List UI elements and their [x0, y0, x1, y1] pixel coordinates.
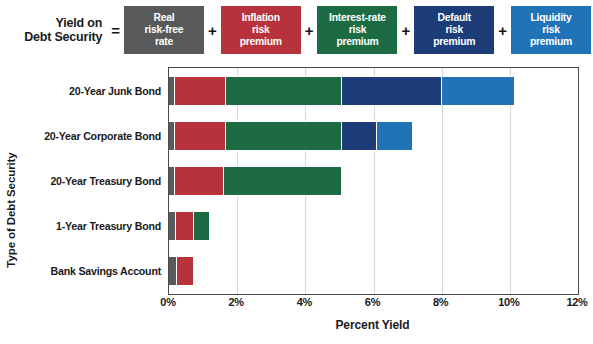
bar-segment[interactable]: [169, 166, 174, 196]
legend-label-line1: Real: [153, 12, 174, 24]
formula-lhs-line1: Yield on: [24, 16, 102, 30]
legend-box-liquidity-risk-premium: Liquidity risk premium: [511, 6, 591, 54]
legend-label-line3: premium: [336, 36, 378, 48]
x-tick-label: 8%: [433, 296, 448, 308]
plus-sign-4: +: [494, 22, 511, 39]
legend-label-line3: rate: [155, 36, 173, 48]
plus-sign-2: +: [301, 22, 318, 39]
bar-segment[interactable]: [176, 211, 193, 241]
x-tick-label: 6%: [365, 296, 380, 308]
bar-row[interactable]: [169, 121, 412, 151]
bar-row[interactable]: [169, 256, 193, 286]
bar-segment[interactable]: [169, 76, 174, 106]
bar-segment[interactable]: [194, 211, 209, 241]
category-label: 20-Year Junk Bond: [22, 68, 166, 113]
bar-row[interactable]: [169, 76, 514, 106]
bar-segment[interactable]: [342, 121, 376, 151]
x-axis-tick-labels: 0%2%4%6%8%10%12%: [168, 296, 577, 314]
bar-row[interactable]: [169, 166, 341, 196]
y-axis-title-text: Type of Debt Security: [5, 152, 17, 267]
bar-segment[interactable]: [177, 256, 192, 286]
bar-segment[interactable]: [442, 76, 514, 106]
bar-segment[interactable]: [226, 76, 342, 106]
y-axis-title: Type of Debt Security: [0, 120, 22, 300]
formula-lhs-line2: Debt Security: [24, 30, 102, 44]
category-label: 1-Year Treasury Bond: [22, 203, 166, 248]
x-tick-label: 2%: [229, 296, 244, 308]
bar-segment[interactable]: [377, 121, 411, 151]
legend-label-line3: premium: [433, 36, 475, 48]
bar-series-container: [169, 68, 578, 294]
yield-formula-legend: Yield on Debt Security = Real risk-free …: [0, 0, 593, 60]
plus-sign-3: +: [397, 22, 414, 39]
category-label: 20-Year Treasury Bond: [22, 158, 166, 203]
x-axis-title: Percent Yield: [168, 318, 577, 332]
legend-label-line2: risk: [349, 24, 367, 36]
legend-label-line2: risk-free: [145, 24, 184, 36]
legend-box-interest-rate-risk-premium: Interest-rate risk premium: [317, 6, 397, 54]
category-label: Bank Savings Account: [22, 248, 166, 293]
equals-sign: =: [107, 22, 124, 39]
plus-sign-1: +: [204, 22, 221, 39]
stacked-bar-chart: Type of Debt Security 20-Year Junk Bond2…: [0, 60, 593, 344]
bar-segment[interactable]: [169, 121, 174, 151]
legend-box-default-risk-premium: Default risk premium: [414, 6, 494, 54]
bar-segment[interactable]: [169, 211, 175, 241]
legend-label-line3: premium: [530, 36, 572, 48]
legend-label-line1: Liquidity: [530, 12, 571, 24]
bar-segment[interactable]: [175, 166, 223, 196]
bar-segment[interactable]: [224, 166, 342, 196]
category-label: 20-Year Corporate Bond: [22, 113, 166, 158]
legend-label-line1: Inflation: [242, 12, 280, 24]
y-axis-category-labels: 20-Year Junk Bond20-Year Corporate Bond2…: [22, 68, 166, 293]
legend-label-line2: risk: [252, 24, 270, 36]
x-tick-label: 10%: [498, 296, 519, 308]
legend-label-line3: premium: [240, 36, 282, 48]
bar-segment[interactable]: [175, 121, 224, 151]
legend-label-line2: risk: [445, 24, 463, 36]
plot-area: [168, 67, 579, 295]
x-tick-label: 12%: [566, 296, 587, 308]
bar-segment[interactable]: [226, 121, 342, 151]
legend-box-inflation-risk-premium: Inflation risk premium: [221, 6, 301, 54]
formula-left-side: Yield on Debt Security: [24, 16, 107, 44]
bar-segment[interactable]: [175, 76, 224, 106]
bar-segment[interactable]: [169, 256, 176, 286]
bar-segment[interactable]: [342, 76, 441, 106]
legend-label-line1: Default: [438, 12, 471, 24]
x-tick-label: 0%: [160, 296, 175, 308]
x-tick-label: 4%: [297, 296, 312, 308]
bar-row[interactable]: [169, 211, 209, 241]
legend-box-real-risk-free-rate: Real risk-free rate: [124, 6, 204, 54]
legend-label-line1: Interest-rate: [329, 12, 386, 24]
legend-label-line2: risk: [542, 24, 560, 36]
